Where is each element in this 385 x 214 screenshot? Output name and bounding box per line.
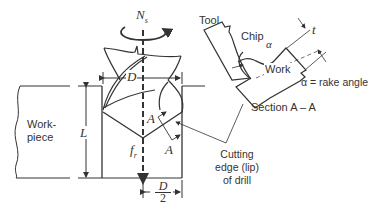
alpha-label: α [266, 38, 272, 51]
rake-angle-legend: α = rake angle [301, 76, 368, 89]
half-diameter-label: D 2 [155, 181, 171, 204]
cutting-edge-leader [176, 122, 226, 143]
section-leader [226, 104, 243, 143]
feed-label: fr [130, 143, 137, 162]
chip-label: Chip [241, 30, 264, 43]
tool-label: Tool [199, 14, 219, 27]
work-label: Work [264, 63, 291, 76]
workpiece-label: Work- piece [27, 118, 56, 144]
drilling-diagram [0, 0, 385, 214]
spindle-speed-label: Ns [136, 8, 148, 27]
section-title: Section A – A [251, 101, 316, 114]
diameter-label: D [126, 70, 137, 83]
thickness-label: t [312, 23, 316, 36]
section-marker-top: A [147, 112, 155, 125]
cutting-edge-label: Cutting edge (lip) of drill [212, 148, 262, 187]
section-marker-bottom: A [165, 143, 173, 156]
length-label: L [80, 126, 87, 139]
